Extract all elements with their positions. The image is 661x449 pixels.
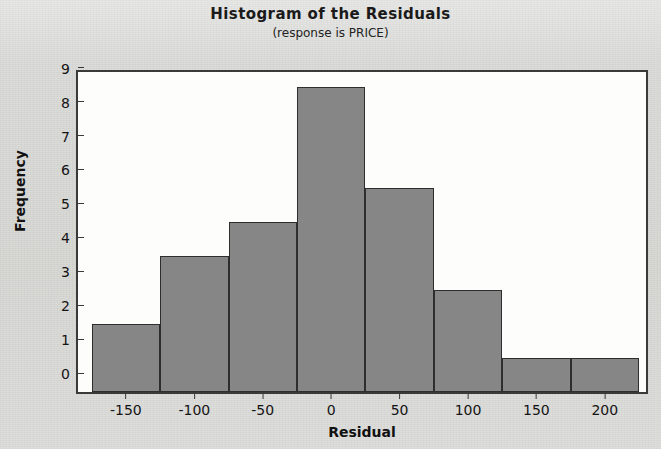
histogram-bar bbox=[571, 358, 639, 392]
y-tick: 9 bbox=[61, 58, 78, 77]
y-tick-label: 8 bbox=[61, 94, 78, 110]
x-tick-label: -50 bbox=[251, 402, 274, 418]
y-tick-label: 6 bbox=[61, 162, 78, 178]
histogram-bar bbox=[365, 188, 433, 392]
y-tick: 4 bbox=[61, 228, 78, 247]
x-tick-label: 200 bbox=[591, 402, 618, 418]
y-tick-mark bbox=[78, 237, 84, 238]
y-tick-label: 2 bbox=[61, 298, 78, 314]
y-tick-mark bbox=[78, 339, 84, 340]
y-tick: 7 bbox=[61, 126, 78, 145]
x-tick: -50 bbox=[251, 392, 274, 418]
histogram-bar bbox=[434, 290, 502, 392]
histogram-bar bbox=[502, 358, 570, 392]
x-tick: 50 bbox=[391, 392, 409, 418]
y-tick-mark bbox=[78, 67, 84, 68]
y-tick-label: 4 bbox=[61, 230, 78, 246]
y-tick-mark bbox=[78, 135, 84, 136]
y-tick-mark bbox=[78, 203, 84, 204]
x-tick: 150 bbox=[523, 392, 550, 418]
y-tick-label: 5 bbox=[61, 196, 78, 212]
y-tick: 0 bbox=[61, 364, 78, 383]
x-tick-label: -150 bbox=[110, 402, 142, 418]
histogram-bar bbox=[92, 324, 160, 392]
x-tick-mark bbox=[604, 392, 605, 399]
y-tick: 5 bbox=[61, 194, 78, 213]
y-tick-mark bbox=[78, 101, 84, 102]
x-tick: 200 bbox=[591, 392, 618, 418]
histogram-bar bbox=[160, 256, 228, 392]
y-tick-label: 0 bbox=[61, 366, 78, 382]
y-tick-label: 3 bbox=[61, 264, 78, 280]
x-tick: -100 bbox=[178, 392, 210, 418]
x-tick-label: -100 bbox=[178, 402, 210, 418]
y-tick: 6 bbox=[61, 160, 78, 179]
x-tick-mark bbox=[262, 392, 263, 399]
x-tick-label: 50 bbox=[391, 402, 409, 418]
x-tick-mark bbox=[194, 392, 195, 399]
x-tick-label: 100 bbox=[455, 402, 482, 418]
x-tick-mark bbox=[331, 392, 332, 399]
histogram-bar bbox=[229, 222, 297, 392]
y-tick: 8 bbox=[61, 92, 78, 111]
histogram-figure: Histogram of the Residuals (response is … bbox=[0, 0, 661, 449]
y-tick: 3 bbox=[61, 262, 78, 281]
y-tick-label: 9 bbox=[61, 60, 78, 76]
x-tick-mark bbox=[399, 392, 400, 399]
y-tick-label: 7 bbox=[61, 128, 78, 144]
y-tick-mark bbox=[78, 271, 84, 272]
y-tick-mark bbox=[78, 373, 84, 374]
y-tick-mark bbox=[78, 305, 84, 306]
y-tick-mark bbox=[78, 169, 84, 170]
bars-group bbox=[78, 72, 646, 392]
x-tick: 0 bbox=[327, 392, 336, 418]
x-axis-label: Residual bbox=[76, 424, 648, 440]
x-tick-mark bbox=[125, 392, 126, 399]
y-tick: 1 bbox=[61, 330, 78, 349]
plot-area: 0123456789 -150-100-50050100150200 bbox=[76, 70, 648, 394]
x-tick: -150 bbox=[110, 392, 142, 418]
chart-subtitle: (response is PRICE) bbox=[0, 26, 661, 40]
x-tick: 100 bbox=[455, 392, 482, 418]
y-axis-label: Frequency bbox=[12, 150, 28, 232]
x-tick-label: 0 bbox=[327, 402, 336, 418]
x-tick-mark bbox=[536, 392, 537, 399]
histogram-bar bbox=[297, 87, 365, 392]
y-tick: 2 bbox=[61, 296, 78, 315]
y-tick-label: 1 bbox=[61, 332, 78, 348]
chart-title: Histogram of the Residuals bbox=[0, 5, 661, 23]
x-tick-mark bbox=[467, 392, 468, 399]
x-tick-label: 150 bbox=[523, 402, 550, 418]
